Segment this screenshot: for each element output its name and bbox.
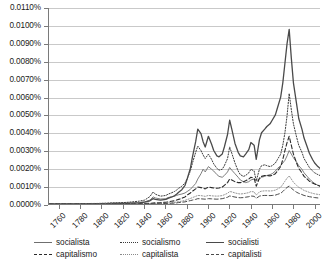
x-tick-mark — [144, 205, 145, 209]
y-tick-label: 0.0050% — [9, 111, 41, 119]
legend-item-socialista[interactable]: socialista — [34, 236, 120, 248]
legend-label: capitalismo — [56, 250, 97, 259]
y-tick-label: 0.0080% — [9, 58, 41, 66]
legend-row: capitalismocapitalistacapitalisti — [0, 248, 326, 260]
x-tick-mark — [123, 205, 124, 209]
y-tick-label: 0.0000% — [9, 201, 41, 209]
x-tick-mark — [229, 205, 230, 209]
x-tick-mark — [59, 205, 60, 209]
legend-label: socialista — [56, 238, 90, 247]
y-tick-label: 0.0090% — [9, 40, 41, 48]
y-axis: 0.0110%0.0100%0.0090%0.0080%0.0070%0.006… — [0, 0, 48, 213]
legend-line-icon — [120, 251, 138, 258]
x-tick-mark — [251, 205, 252, 209]
legend-label: capitalisti — [228, 250, 262, 259]
x-tick-mark — [272, 205, 273, 209]
plot-area — [48, 8, 320, 205]
legend-item-socialisti[interactable]: socialisti — [206, 236, 292, 248]
chart-legend: socialistasocialismosocialisticapitalism… — [0, 236, 326, 262]
x-tick-mark — [165, 205, 166, 209]
legend-label: socialisti — [228, 238, 259, 247]
x-tick-mark — [208, 205, 209, 209]
legend-line-icon — [120, 239, 138, 246]
legend-line-icon — [34, 251, 52, 258]
ngram-chart: 0.0110%0.0100%0.0090%0.0080%0.0070%0.006… — [0, 0, 326, 262]
y-tick-label: 0.0110% — [10, 4, 41, 12]
series-line-socialisti — [49, 29, 320, 204]
y-tick-label: 0.0010% — [9, 183, 41, 191]
series-lines — [49, 8, 320, 204]
legend-line-icon — [206, 251, 224, 258]
x-tick-mark — [293, 205, 294, 209]
y-tick-label: 0.0070% — [9, 76, 41, 84]
legend-item-capitalisti[interactable]: capitalisti — [206, 248, 292, 260]
legend-item-capitalista[interactable]: capitalista — [120, 248, 206, 260]
legend-line-icon — [206, 239, 224, 246]
legend-item-capitalismo[interactable]: capitalismo — [34, 248, 120, 260]
y-tick-label: 0.0040% — [9, 129, 41, 137]
legend-label: socialismo — [142, 238, 180, 247]
legend-row: socialistasocialismosocialisti — [0, 236, 326, 248]
x-tick-mark — [101, 205, 102, 209]
legend-label: capitalista — [142, 250, 178, 259]
x-tick-mark — [187, 205, 188, 209]
series-line-socialismo — [49, 94, 320, 204]
series-line-capitalisti — [49, 186, 320, 204]
x-tick-mark — [315, 205, 316, 209]
series-line-socialista — [49, 151, 320, 204]
y-tick-label: 0.0020% — [9, 165, 41, 173]
x-tick-mark — [80, 205, 81, 209]
legend-item-socialismo[interactable]: socialismo — [120, 236, 206, 248]
series-line-capitalista — [49, 176, 320, 204]
legend-line-icon — [34, 239, 52, 246]
y-tick-label: 0.0100% — [9, 22, 41, 30]
y-tick-label: 0.0060% — [9, 93, 41, 101]
y-tick-label: 0.0030% — [9, 147, 41, 155]
